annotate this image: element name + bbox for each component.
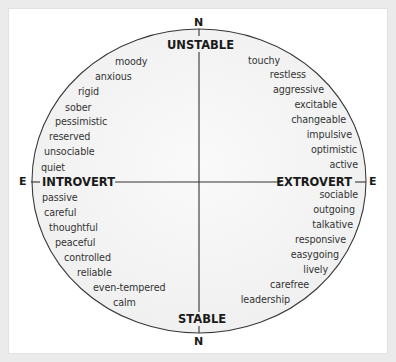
axis-label-introvert: INTROVERT — [42, 176, 115, 189]
trait-sociable: sociable — [319, 189, 358, 200]
trait-careful: careful — [44, 207, 76, 218]
trait-reliable: reliable — [77, 267, 112, 278]
trait-unsociable: unsociable — [44, 146, 95, 157]
trait-outgoing: outgoing — [313, 204, 355, 215]
trait-carefree: carefree — [270, 279, 309, 290]
trait-restless: restless — [270, 69, 306, 80]
trait-changeable: changeable — [291, 114, 346, 125]
trait-talkative: talkative — [312, 219, 353, 230]
trait-anxious: anxious — [95, 71, 132, 82]
trait-quiet: quiet — [41, 162, 65, 173]
trait-responsive: responsive — [295, 234, 346, 245]
trait-excitable: excitable — [294, 99, 337, 110]
compass-top-label: N — [194, 17, 203, 29]
trait-lively: lively — [303, 264, 328, 275]
trait-leadership: leadership — [241, 294, 290, 305]
trait-touchy: touchy — [212, 55, 282, 66]
trait-controlled: controlled — [64, 252, 111, 263]
trait-easygoing: easygoing — [291, 249, 339, 260]
trait-thoughtful: thoughtful — [49, 222, 98, 233]
trait-moody: moody — [115, 56, 147, 67]
axis-label-unstable: UNSTABLE — [167, 39, 234, 52]
trait-peaceful: peaceful — [55, 237, 95, 248]
compass-left-label: E — [19, 176, 27, 188]
trait-sober: sober — [65, 102, 91, 113]
trait-passive: passive — [42, 192, 78, 203]
trait-calm: calm — [113, 297, 136, 308]
compass-right-label: E — [369, 176, 377, 188]
trait-optimistic: optimistic — [311, 144, 357, 155]
trait-active: active — [329, 159, 358, 170]
axis-label-stable: STABLE — [178, 313, 226, 326]
trait-pessimistic: pessimistic — [55, 116, 107, 127]
axis-label-extrovert: EXTROVERT — [272, 176, 352, 189]
trait-even-tempered: even-tempered — [93, 282, 165, 293]
trait-rigid: rigid — [78, 86, 99, 97]
trait-reserved: reserved — [49, 131, 90, 142]
trait-impulsive: impulsive — [307, 129, 352, 140]
trait-aggressive: aggressive — [273, 84, 324, 95]
compass-bottom-label: N — [194, 336, 203, 348]
